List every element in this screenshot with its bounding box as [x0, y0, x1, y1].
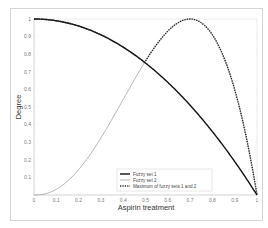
- y-tick-label: 0.3: [24, 139, 31, 145]
- y-tick-label: 1: [28, 16, 31, 22]
- x-tick-label: 0.9: [231, 197, 238, 203]
- y-tick-label: 0.9: [24, 33, 31, 39]
- legend: Fuzzy set 1Fuzzy set 2Maximum of fuzzy s…: [117, 169, 212, 191]
- series-fuzzy-set-1: [34, 19, 257, 195]
- plot-area-border: [34, 19, 257, 195]
- x-tick-label: 0: [33, 197, 36, 203]
- y-tick-label: 0.6: [24, 86, 31, 92]
- x-tick-label: 0.8: [209, 197, 216, 203]
- y-tick-label: 0.4: [24, 121, 31, 127]
- x-tick-label: 1: [256, 197, 259, 203]
- y-tick-label: 0.2: [24, 157, 31, 163]
- data-series: [34, 19, 257, 195]
- x-tick-label: 0.3: [97, 197, 104, 203]
- y-axis-ticks: 0.10.20.30.40.50.60.70.80.91: [24, 16, 257, 180]
- series-fuzzy-set-2: [34, 19, 257, 195]
- y-tick-label: 0.1: [24, 174, 31, 180]
- x-axis-label: Aspirin treatment: [118, 203, 176, 212]
- x-tick-label: 0.1: [53, 197, 60, 203]
- y-tick-label: 0.7: [24, 69, 31, 75]
- legend-item-label: Fuzzy set 1: [133, 172, 157, 177]
- fuzzy-sets-chart: 0.10.20.30.40.50.60.70.80.91 00.10.20.30…: [0, 0, 268, 228]
- y-axis-label: Degree: [14, 95, 23, 120]
- y-tick-label: 0.8: [24, 51, 31, 57]
- y-tick-label: 0.5: [24, 104, 31, 110]
- x-tick-label: 0.7: [187, 197, 194, 203]
- series-maximum: [34, 19, 257, 195]
- x-tick-label: 0.2: [75, 197, 82, 203]
- legend-item-label: Fuzzy set 2: [133, 178, 157, 183]
- legend-item-label: Maximum of fuzzy sets 1 and 2: [133, 184, 197, 189]
